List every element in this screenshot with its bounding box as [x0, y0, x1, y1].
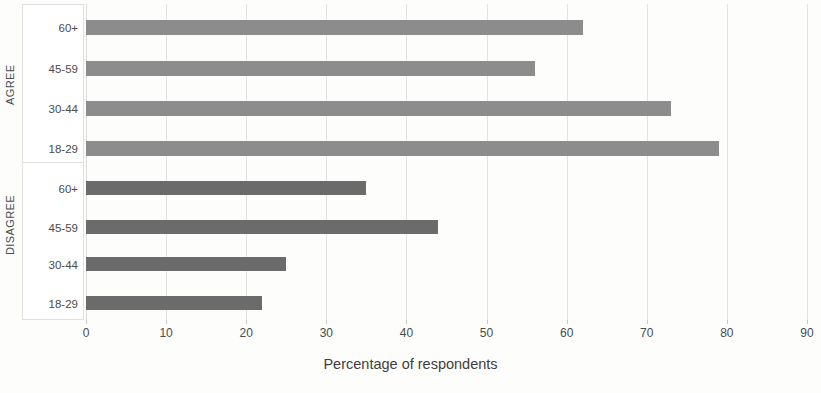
category-label: 30-44	[22, 259, 84, 271]
x-tick-mark	[406, 320, 407, 324]
bar	[86, 101, 671, 116]
bar	[86, 61, 535, 76]
x-tick-mark	[166, 320, 167, 324]
bar	[86, 141, 719, 156]
gridline	[727, 4, 728, 320]
bar	[86, 220, 438, 234]
plot-area	[86, 4, 807, 320]
x-tick-label: 20	[226, 326, 266, 340]
gridline	[567, 4, 568, 320]
x-tick-mark	[326, 320, 327, 324]
gridline	[406, 4, 407, 320]
x-axis: 0102030405060708090	[86, 320, 807, 342]
x-tick-label: 40	[386, 326, 426, 340]
gridline	[166, 4, 167, 320]
category-label: 45-59	[22, 222, 84, 234]
x-tick-mark	[246, 320, 247, 324]
category-label: 18-29	[22, 143, 84, 155]
bar	[86, 20, 583, 35]
gridline	[246, 4, 247, 320]
x-tick-label: 10	[146, 326, 186, 340]
x-tick-label: 70	[627, 326, 667, 340]
gridline	[487, 4, 488, 320]
x-tick-label: 80	[707, 326, 747, 340]
group-label-agree: AGREE	[0, 30, 20, 160]
x-tick-label: 30	[306, 326, 346, 340]
category-label: 60+	[22, 22, 84, 34]
bar	[86, 257, 286, 271]
gridline	[807, 4, 808, 320]
gridline	[86, 4, 87, 320]
group-label-disagree: DISAGREE	[0, 175, 20, 315]
gridline	[326, 4, 327, 320]
bar	[86, 181, 366, 195]
x-tick-label: 60	[547, 326, 587, 340]
category-label: 45-59	[22, 63, 84, 75]
group-label-agree-text: AGREE	[0, 85, 75, 105]
category-label: 18-29	[22, 298, 84, 310]
x-tick-label: 0	[66, 326, 106, 340]
x-tick-mark	[807, 320, 808, 324]
group-divider	[22, 162, 84, 163]
gridline	[647, 4, 648, 320]
category-label: 60+	[22, 183, 84, 195]
bar-chart: 60+45-5930-4418-2960+45-5930-4418-29 AGR…	[0, 0, 821, 393]
x-tick-mark	[727, 320, 728, 324]
x-tick-mark	[86, 320, 87, 324]
x-tick-mark	[487, 320, 488, 324]
x-axis-title: Percentage of respondents	[0, 356, 821, 372]
x-tick-label: 90	[787, 326, 821, 340]
x-tick-mark	[567, 320, 568, 324]
x-tick-mark	[647, 320, 648, 324]
group-label-disagree-text: DISAGREE	[0, 235, 80, 255]
bar	[86, 296, 262, 310]
x-tick-label: 50	[467, 326, 507, 340]
